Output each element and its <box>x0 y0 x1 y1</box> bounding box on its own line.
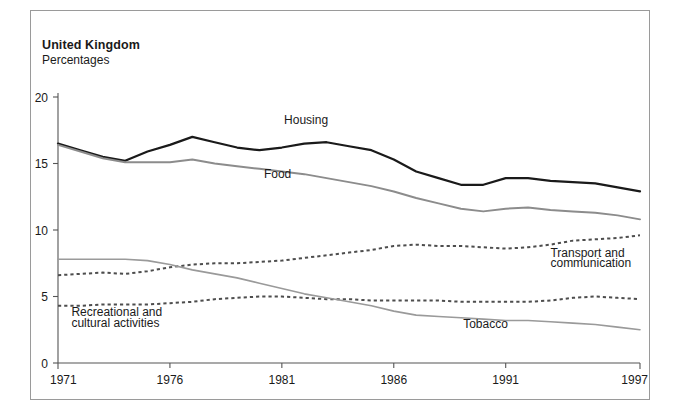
x-axis-tick-label: 1986 <box>380 373 407 387</box>
series-annotation-label: communication <box>550 256 631 270</box>
axes-layer: 05101520197119761981198619911997 <box>35 91 649 388</box>
x-axis-tick-label: 1991 <box>492 373 519 387</box>
x-axis-tick-label: 1981 <box>268 373 295 387</box>
y-axis-tick-label: 10 <box>35 224 49 238</box>
line-chart-plot: 05101520197119761981198619911997 Housing… <box>0 0 680 410</box>
x-axis-tick-label: 1971 <box>50 373 77 387</box>
series-line <box>58 145 640 219</box>
series-annotation-label: Food <box>264 167 291 181</box>
y-axis-tick-label: 5 <box>41 290 48 304</box>
series-annotation-label: cultural activities <box>71 316 159 330</box>
y-axis-tick-label: 15 <box>35 157 49 171</box>
series-annotation-label: Housing <box>284 113 328 127</box>
x-axis-tick-label: 1997 <box>621 373 648 387</box>
y-axis-tick-label: 0 <box>41 357 48 371</box>
series-layer <box>58 137 640 330</box>
series-annotation-label: Tobacco <box>463 317 508 331</box>
series-line <box>58 137 640 192</box>
y-axis-tick-label: 20 <box>35 91 49 105</box>
chart-page: United Kingdom Percentages 0510152019711… <box>0 0 680 410</box>
x-axis-tick-label: 1976 <box>157 373 184 387</box>
